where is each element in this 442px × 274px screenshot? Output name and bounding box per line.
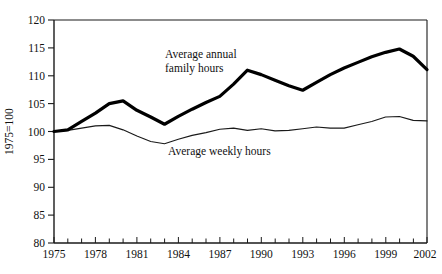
y-tick-label-95: 95 [34,153,46,165]
x-tick-label-1975: 1975 [43,248,66,260]
y-axis-tick-labels: 80 85 90 95 100 105 110 115 120 [28,14,46,249]
y-tick-label-100: 100 [28,126,46,138]
series-line-average-annual-family-hours [54,49,427,132]
x-tick-label-1990: 1990 [250,248,273,260]
x-tick-label-2002: 2002 [414,248,437,260]
y-tick-label-105: 105 [28,98,46,110]
plot-frame [54,20,427,243]
annotation-average-weekly-hours: Average weekly hours [168,145,271,158]
x-tick-label-1978: 1978 [84,248,107,260]
annotation-weekly-line1: Average weekly hours [168,145,271,158]
x-tick-label-1993: 1993 [291,248,314,260]
x-tick-label-1981: 1981 [125,248,148,260]
y-tick-label-90: 90 [34,181,46,193]
y-axis-title: 1975=100 [3,108,15,155]
x-tick-label-1987: 1987 [208,248,231,260]
annotation-family-line1: Average annual [165,48,237,61]
annotation-average-annual-family-hours: Average annual family hours [165,48,237,75]
series-line-average-weekly-hours [54,116,427,143]
y-tick-label-85: 85 [34,209,46,221]
x-axis-minor-ticks [54,237,427,243]
chart-page: 80 85 90 95 100 105 110 115 120 1975=100 [0,0,442,274]
x-tick-label-1984: 1984 [167,248,190,260]
annotation-family-line2: family hours [165,62,224,75]
y-tick-label-110: 110 [28,70,45,82]
x-tick-label-1996: 1996 [333,248,356,260]
x-axis-tick-labels: 1975 1978 1981 1984 1987 1990 1993 1996 … [43,248,437,260]
y-tick-label-120: 120 [28,14,46,26]
x-tick-label-1999: 1999 [374,248,397,260]
line-chart: 80 85 90 95 100 105 110 115 120 1975=100 [0,0,442,274]
y-tick-label-115: 115 [28,42,45,54]
